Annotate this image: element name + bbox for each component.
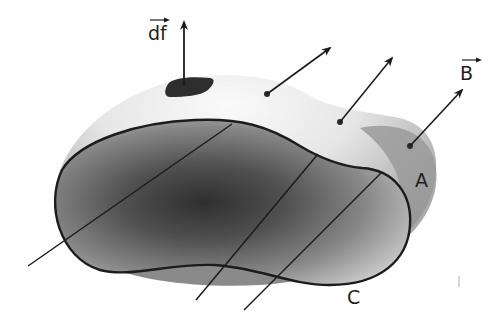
diagram-canvas: df B A C — [0, 0, 502, 320]
field-arrow-1 — [267, 48, 330, 94]
field-arrow-3 — [410, 90, 462, 146]
label-b-text: B — [460, 62, 473, 84]
label-df: df — [148, 24, 167, 43]
label-df-text: df — [148, 22, 167, 44]
vector-arrow-icon — [462, 57, 482, 63]
vector-arrow-icon — [150, 17, 170, 23]
flux-diagram — [0, 0, 502, 320]
label-b: B — [460, 64, 473, 83]
label-a: A — [415, 171, 428, 190]
label-c: C — [347, 288, 360, 307]
